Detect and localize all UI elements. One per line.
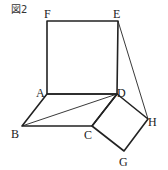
label-b: B (11, 127, 19, 141)
square-afed (47, 21, 118, 94)
label-g: G (119, 155, 128, 169)
label-c: C (84, 128, 92, 142)
segment-eh (118, 21, 148, 119)
figure-title: 図2 (11, 4, 27, 15)
label-a: A (36, 86, 45, 100)
label-h: H (148, 115, 157, 129)
label-d: D (117, 86, 126, 100)
label-e: E (113, 7, 120, 21)
label-f: F (44, 7, 51, 21)
geometry-figure: 図2 F E A D B C H G (0, 0, 168, 170)
square-dcgh (92, 94, 148, 151)
